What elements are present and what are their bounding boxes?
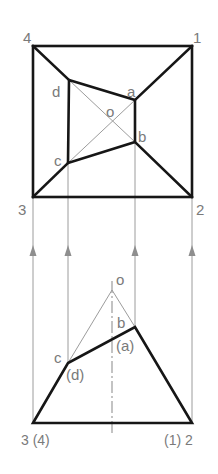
label-corner-2: 2 (196, 201, 204, 218)
label-a-hidden: (a) (116, 337, 134, 354)
label-point-c: c (54, 152, 62, 169)
arrow-up-icon (132, 245, 139, 256)
label-point-b: b (138, 128, 146, 145)
arrow-up-icon (65, 245, 72, 256)
edge-4-d (33, 46, 69, 80)
label-corner-3: 3 (18, 201, 26, 218)
section-abcd (68, 80, 135, 163)
label-corner-4: 4 (23, 29, 31, 46)
label-corner-1: 1 (193, 29, 201, 46)
arrow-up-icon (189, 245, 196, 256)
label-d-hidden: (d) (66, 366, 84, 383)
label-apex-o: o (116, 271, 124, 288)
label-c: c (54, 349, 62, 366)
label-b: b (117, 314, 125, 331)
label-base-right: (1) 2 (164, 432, 193, 448)
edge-1-a (135, 46, 192, 100)
label-point-a: a (127, 83, 136, 100)
front-view: o b (a) c (d) 3 (4) (1) 2 (21, 271, 193, 448)
edge-3-c (33, 163, 68, 197)
arrow-up-icon (30, 245, 37, 256)
projection-arrows (30, 245, 196, 256)
label-base-left: 3 (4) (21, 432, 50, 448)
top-view: 4 1 3 2 d a o b c (18, 29, 204, 218)
projection-diagram: 4 1 3 2 d a o b c o b (a) c (d) 3 (4) (1… (0, 0, 218, 474)
label-point-o: o (106, 103, 114, 120)
label-point-d: d (52, 83, 60, 100)
edge-2-b (135, 142, 192, 197)
